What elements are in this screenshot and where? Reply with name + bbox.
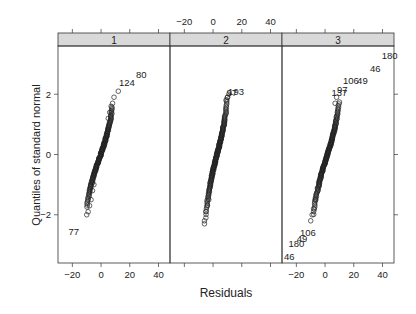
x-tick-label-bottom: −20 bbox=[288, 269, 304, 280]
point-label: 49 bbox=[357, 75, 368, 86]
strip-label: 2 bbox=[223, 35, 229, 46]
qq-point bbox=[204, 209, 209, 214]
y-tick-label: 2 bbox=[46, 89, 51, 100]
point-label: 106 bbox=[300, 227, 316, 238]
panel-1: 17712480 bbox=[58, 33, 170, 263]
y-axis-label: Quantiles of standard normal bbox=[30, 84, 42, 225]
qq-point bbox=[308, 219, 313, 224]
x-tick-label-top: 40 bbox=[265, 16, 276, 27]
point-label: 80 bbox=[136, 69, 147, 80]
x-tick-label-bottom: 40 bbox=[377, 269, 388, 280]
x-tick-label-top: 20 bbox=[237, 16, 248, 27]
panel-3: 34618049106137971064946180 bbox=[282, 33, 398, 263]
x-tick-label-bottom: 0 bbox=[322, 269, 327, 280]
point-label: 97 bbox=[226, 87, 237, 98]
panels-group: 1771248021939734618049106137971064946180 bbox=[58, 33, 398, 263]
y-tick-label: 0 bbox=[46, 149, 51, 160]
point-label: 124 bbox=[119, 77, 135, 88]
strip-label: 3 bbox=[335, 35, 341, 46]
strip-label: 1 bbox=[111, 35, 117, 46]
qq-point bbox=[116, 89, 121, 94]
panel-2: 219397 bbox=[170, 33, 282, 263]
point-label: 46 bbox=[370, 63, 381, 74]
panel-frame bbox=[282, 46, 394, 263]
qq-plot: 1771248021939734618049106137971064946180… bbox=[0, 0, 416, 314]
x-tick-label-bottom: 20 bbox=[125, 269, 136, 280]
panel-frame bbox=[170, 46, 282, 263]
x-axis-label: Residuals bbox=[200, 286, 253, 300]
x-tick-label-top: −20 bbox=[176, 16, 192, 27]
qq-point bbox=[112, 95, 117, 100]
x-tick-label-bottom: 20 bbox=[349, 269, 360, 280]
x-tick-label-bottom: 40 bbox=[153, 269, 164, 280]
point-label: 77 bbox=[69, 226, 80, 237]
x-tick-label-top: 0 bbox=[210, 16, 215, 27]
point-label: 180 bbox=[382, 50, 398, 61]
point-label: 46 bbox=[284, 251, 295, 262]
x-tick-label-bottom: −20 bbox=[64, 269, 80, 280]
x-tick-label-bottom: 0 bbox=[98, 269, 103, 280]
